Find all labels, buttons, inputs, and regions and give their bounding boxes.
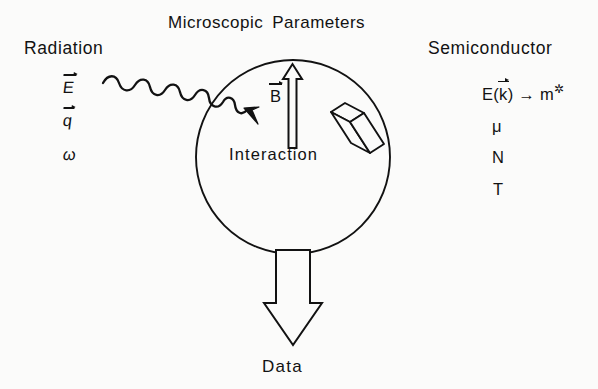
magnetic-field-label: B (270, 88, 281, 105)
physics-schematic-figure: MicroscopicParameters Radiation E q ω Se… (0, 0, 598, 389)
semiconductor-symbol-carrier-density: N (492, 149, 504, 166)
vector-arrow-icon (63, 107, 75, 109)
semiconductor-symbol-temperature: T (493, 181, 503, 198)
interaction-label: Interaction (229, 146, 318, 163)
vector-k: k (499, 86, 508, 103)
figure-title-word-2: Parameters (272, 13, 365, 32)
diagram-canvas (0, 0, 598, 389)
radiation-symbol-omega: ω (62, 146, 77, 163)
vector-arrow-icon (498, 81, 509, 83)
sample-parallelepiped-icon (331, 103, 384, 153)
figure-title: MicroscopicParameters (168, 14, 365, 31)
vector-B: B (270, 88, 281, 105)
radiation-symbol-q: q (62, 112, 74, 129)
semiconductor-symbol-mobility: μ (492, 118, 502, 135)
effective-mass-star-icon: ✲ (554, 82, 564, 96)
semiconductor-symbol-band-structure: E(k) → m✲ (482, 83, 564, 102)
magnetic-field-arrow-icon (283, 64, 302, 148)
vector-arrow-icon (269, 83, 282, 85)
incident-wave-arrowhead-icon (244, 107, 259, 124)
incident-wave-icon (103, 76, 247, 113)
radiation-symbol-E: E (62, 79, 75, 96)
radiation-heading: Radiation (24, 40, 103, 58)
semiconductor-heading: Semiconductor (428, 40, 553, 58)
data-output-arrow-icon (264, 250, 322, 345)
vector-arrow-icon (63, 74, 77, 76)
vector-q: q (62, 112, 74, 129)
data-output-label: Data (262, 358, 303, 375)
figure-title-word-1: Microscopic (168, 13, 263, 32)
vector-E: E (62, 79, 75, 96)
